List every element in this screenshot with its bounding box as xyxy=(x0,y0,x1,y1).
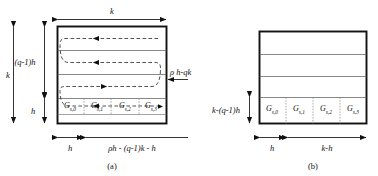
panel-b-cell-sub-3: s,3 xyxy=(353,109,359,115)
panel-a-cell-sub-2: s,2 xyxy=(125,106,131,112)
panel-a-cell-sub-0: s,0 xyxy=(70,106,76,112)
panel-a-cell-label-3: Gs,3 xyxy=(145,102,157,112)
panel-a-bottom-right-dimension-label: ρh - (q-1)k - h xyxy=(108,144,156,153)
panel-a-group xyxy=(14,20,189,138)
panel-b-cell-label-3: Gs,3 xyxy=(347,105,359,115)
figure-root: k k (q-1)h h ρ h-qk h ρh - (q-1)k - h Gs… xyxy=(0,0,378,176)
panel-b-cell-sub-1: s,1 xyxy=(299,109,305,115)
panel-b-bottom-right-dimension-label: k-h xyxy=(322,144,333,153)
panel-a-left-outer-dimension-label: k xyxy=(6,71,10,80)
panel-a-bottom-left-dimension-label: h xyxy=(68,144,72,153)
panel-a-cell-sub-1: s,1 xyxy=(97,106,103,112)
panel-b-bottom-left-dimension-label: h xyxy=(270,144,274,153)
panel-a-cell-label-1: Gs,1 xyxy=(91,102,103,112)
panel-b-caption: (b) xyxy=(308,162,318,171)
panel-b-cell-label-1: Gs,1 xyxy=(293,105,305,115)
panel-b-cell-label-2: Gs,2 xyxy=(320,105,332,115)
panel-a-right-dimension-label: ρ h-qk xyxy=(170,68,191,77)
panel-a-top-dimension-label: k xyxy=(110,7,114,16)
panel-a-left-upper-dimension-label: (q-1)h xyxy=(14,58,35,67)
panel-a-caption: (a) xyxy=(107,162,116,171)
panel-a-cell-label-2: Gs,2 xyxy=(119,102,131,112)
panel-a-left-lower-dimension-label: h xyxy=(31,107,35,116)
panel-b-left-dimension-label: k-(q-1)h xyxy=(212,106,240,115)
panel-b-cell-sub-0: s,0 xyxy=(272,109,278,115)
panel-a-cell-sub-3: s,3 xyxy=(151,106,157,112)
panel-b-group xyxy=(250,32,367,138)
panel-a-cell-label-0: Gs,0 xyxy=(64,102,76,112)
panel-b-cell-label-0: Gs,0 xyxy=(266,105,278,115)
panel-b-cell-sub-2: s,2 xyxy=(326,109,332,115)
